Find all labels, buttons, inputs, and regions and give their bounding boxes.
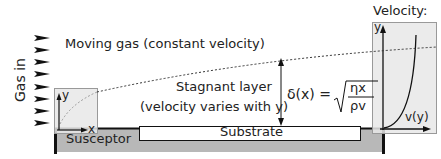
susceptor-label: Susceptor: [66, 131, 131, 146]
substrate-label: Substrate: [220, 124, 283, 139]
left-inset-x-label: x: [88, 122, 95, 136]
equation-lhs: δ(x) =: [287, 86, 331, 102]
left-inset-y-label: y: [62, 88, 69, 102]
gas-in-arrows: [34, 35, 50, 126]
moving-gas-label: Moving gas (constant velocity): [65, 36, 265, 51]
equation-denominator: ρv: [350, 98, 366, 113]
velocity-x-label: v(y): [405, 110, 429, 124]
velocity-y-label: y: [374, 20, 381, 34]
delta-arrow-top: [278, 58, 284, 66]
gas-in-label: Gas in: [12, 58, 28, 102]
stagnant-layer-sublabel: (velocity varies with y): [140, 99, 288, 114]
velocity-title: Velocity:: [373, 3, 427, 18]
cvd-boundary-layer-diagram: Gas in Moving gas (constant velocity) St…: [0, 0, 441, 159]
equation-numerator: ηx: [350, 80, 366, 95]
stagnant-layer-label: Stagnant layer: [176, 79, 272, 94]
